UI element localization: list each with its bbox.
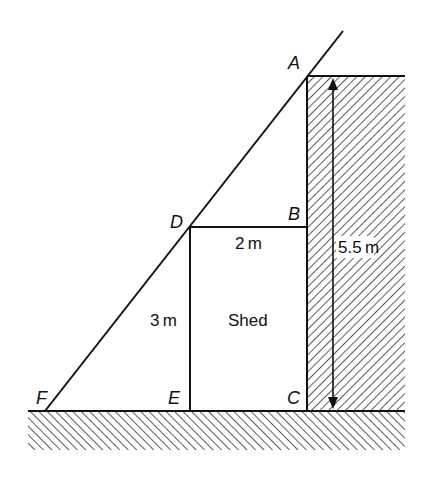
dimension-label-db: 2 m xyxy=(235,234,262,253)
dimension-label-de: 3 m xyxy=(150,311,177,330)
point-label-a: A xyxy=(287,53,300,73)
ground-hatch xyxy=(28,411,405,450)
point-label-b: B xyxy=(288,204,300,224)
point-label-e: E xyxy=(168,388,181,408)
point-labels: A B C D E F xyxy=(36,53,301,408)
shed-ladder-diagram: 5.5 m Shed 2 m 3 m A B C D E F xyxy=(0,0,425,478)
shed: Shed 2 m 3 m xyxy=(150,227,307,411)
ground xyxy=(28,411,405,450)
point-label-c: C xyxy=(287,388,301,408)
shed-label: Shed xyxy=(228,311,268,330)
point-label-d: D xyxy=(170,212,183,232)
point-label-f: F xyxy=(36,388,48,408)
dimension-label-ac: 5.5 m xyxy=(338,238,379,257)
